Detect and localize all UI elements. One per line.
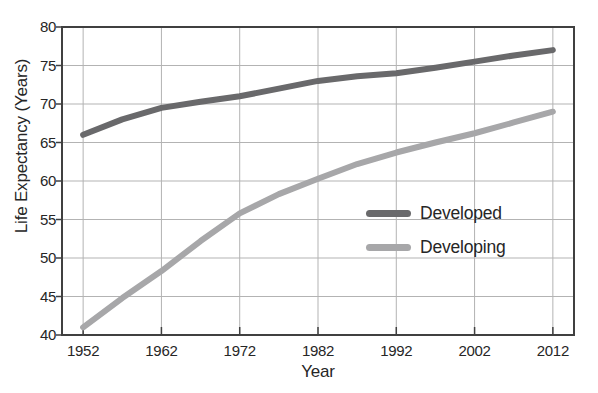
y-tick-label-40: 40 — [24, 326, 56, 344]
x-tick-label-1982: 1982 — [293, 342, 343, 360]
developed-line-swatch — [366, 210, 411, 217]
legend-label-developing: Developing — [420, 237, 506, 258]
y-tick-label-80: 80 — [24, 18, 56, 36]
legend-item-developed: Developed — [366, 201, 506, 225]
y-tick-label-45: 45 — [24, 288, 56, 306]
y-tick-label-60: 60 — [24, 172, 56, 190]
x-tick-label-1952: 1952 — [58, 342, 108, 360]
developing-line-swatch — [366, 244, 411, 251]
y-tick-label-65: 65 — [24, 134, 56, 152]
x-tick-label-1992: 1992 — [371, 342, 421, 360]
legend-item-developing: Developing — [366, 235, 506, 259]
plot-area — [0, 0, 598, 393]
legend-label-developed: Developed — [420, 203, 502, 224]
x-tick-label-1972: 1972 — [215, 342, 265, 360]
y-tick-label-70: 70 — [24, 95, 56, 113]
x-tick-label-2012: 2012 — [528, 342, 578, 360]
y-tick-label-75: 75 — [24, 57, 56, 75]
x-tick-label-2002: 2002 — [450, 342, 500, 360]
legend: Developed Developing — [366, 201, 506, 269]
x-tick-label-1962: 1962 — [136, 342, 186, 360]
life-expectancy-line-chart: Life Expectancy (Years) 8075706560555045… — [0, 0, 598, 393]
y-tick-label-55: 55 — [24, 211, 56, 229]
y-tick-label-50: 50 — [24, 249, 56, 267]
x-axis-title: Year — [218, 362, 418, 382]
